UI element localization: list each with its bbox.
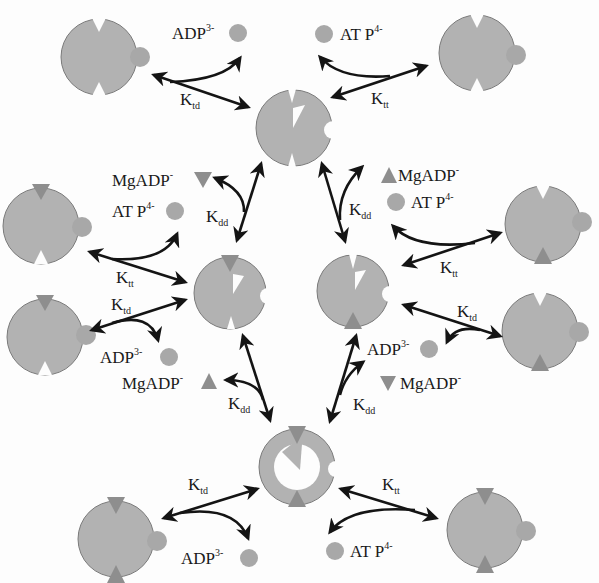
atp-ligand-icon [72, 217, 92, 237]
label-atp-mid-left: AT P4- [112, 200, 155, 221]
k-top-right: Ktt [371, 89, 389, 110]
atp-free-icon [387, 193, 405, 211]
label-atp-mid-right: AT P4- [411, 191, 454, 212]
protein-right-lower [502, 292, 589, 371]
protein-bottom-right [447, 488, 536, 573]
adp-free-icon [240, 549, 258, 567]
mgadp-free-icon [201, 373, 217, 389]
atp-ligand-icon [572, 212, 592, 232]
protein-bottom-center [259, 426, 344, 507]
atp-free-icon [166, 202, 184, 220]
label-adp-top-left: ADP3- [172, 22, 214, 43]
atp-ligand-icon [516, 521, 536, 541]
protein-top-center [256, 89, 342, 167]
k-top-left: Ktd [180, 90, 200, 111]
k-lower-left-dd: Kdd [228, 394, 250, 415]
adp-ligand-icon [76, 325, 96, 345]
label-mgadp-mid-right: MgADP- [398, 164, 459, 185]
protein-inner-right [317, 254, 398, 329]
protein-right-upper [505, 185, 592, 264]
label-mgadp-mid-left: MgADP- [112, 169, 173, 190]
mgadp-free-icon [380, 376, 396, 391]
protein-left-upper [3, 184, 92, 264]
label-adp-lower-right: ADP3- [367, 338, 409, 359]
adp-ligand-icon [569, 322, 589, 342]
kinetic-scheme-diagram: ADP3- AT P4- MgADP- AT P4- MgADP- AT P4-… [0, 0, 599, 583]
adp-free-icon [160, 348, 178, 366]
label-atp-bottom-right: AT P4- [350, 540, 393, 561]
label-mgadp-lower-right: MgADP- [400, 372, 461, 393]
k-bottom-right-tt: Ktt [382, 475, 400, 496]
k-lower-right-dd: Kdd [353, 395, 375, 416]
k-upper-left: Kdd [206, 207, 228, 228]
atp-ligand-icon [130, 47, 150, 67]
protein-left-lower [7, 295, 96, 375]
protein-top-right [439, 14, 526, 92]
protein-top-left [61, 18, 150, 96]
label-adp-lower-left: ADP3- [100, 346, 142, 367]
k-mid-right-tt: Ktt [440, 258, 458, 279]
label-adp-bottom-left: ADP3- [181, 547, 223, 568]
protein-inner-left [194, 255, 276, 329]
adp-free-icon [420, 340, 438, 358]
mgadp-free-icon [194, 172, 212, 188]
atp-free-icon [315, 25, 333, 43]
label-atp-top-right: AT P4- [340, 23, 383, 44]
adp-ligand-icon [147, 531, 167, 551]
diagram-canvas: ADP3- AT P4- MgADP- AT P4- MgADP- AT P4-… [0, 0, 599, 583]
atp-free-icon [326, 542, 344, 560]
label-mgadp-lower-left: MgADP- [122, 372, 183, 393]
k-mid-left-tt: Ktt [116, 268, 134, 289]
atp-ligand-icon [506, 45, 526, 65]
k-bottom-left-td: Ktd [188, 475, 208, 496]
k-mid-left-td: Ktd [111, 295, 131, 316]
protein-bottom-left [78, 497, 167, 583]
mgadp-free-icon [381, 167, 397, 183]
k-upper-right: Kdd [349, 200, 371, 221]
adp-free-icon [229, 24, 247, 42]
k-mid-right-td: Ktd [457, 302, 477, 323]
